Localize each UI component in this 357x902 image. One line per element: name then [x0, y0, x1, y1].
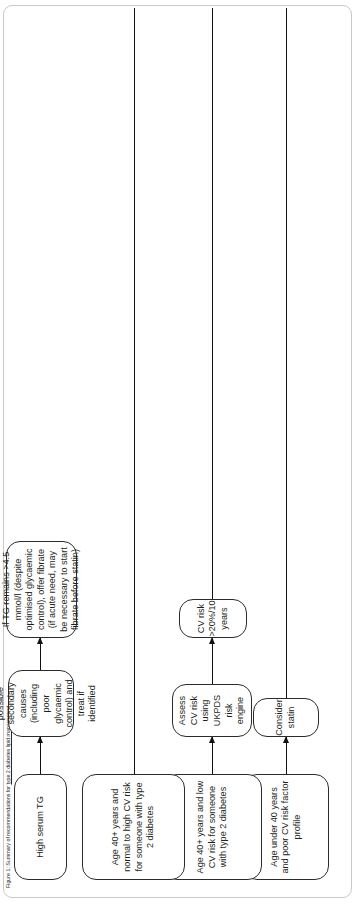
arrow-under-40-to-statin: [286, 737, 287, 774]
node-age-40-plus-normal-high-risk[interactable]: Age 40+ years and normal to high CV risk…: [82, 774, 185, 880]
node-tg-remains-fibrate-label: If TG remains >4.5 mmol/l (despite optim…: [1, 547, 82, 632]
node-assess-secondary-causes-label: Assess possible secondary causes (includ…: [0, 676, 99, 731]
arrow-tg-to-secondary-causes: [40, 737, 41, 774]
node-age-under-40-label: Age under 40 years and poor CV risk fact…: [269, 780, 304, 874]
node-assess-cv-risk-ukpds-label: Assess CV risk using UKPDS risk engine: [177, 690, 247, 731]
node-assess-secondary-causes[interactable]: Assess possible secondary causes (includ…: [8, 670, 74, 737]
node-consider-statin-label: Consider statin: [274, 699, 297, 735]
flowchart-stage: Figure 1: Summary of recommendations for…: [0, 0, 357, 902]
node-assess-cv-risk-ukpds[interactable]: Assess CV risk using UKPDS risk engine: [172, 684, 252, 737]
figure-caption: Figure 1: Summary of recommendations for…: [4, 16, 12, 888]
arrow-secondary-to-fibrate: [40, 638, 41, 670]
figure-page: Figure 1: Summary of recommendations for…: [0, 0, 357, 902]
connector-under-40-tail: [286, 8, 287, 698]
node-age-40-plus-normal-high-risk-label: Age 40+ years and normal to high CV risk…: [110, 780, 156, 874]
node-high-serum-tg[interactable]: High serum TG: [14, 774, 67, 880]
connector-cv-risk-tail: [212, 8, 213, 599]
node-cv-risk-over-20-label: CV risk >20%/10 years: [196, 600, 231, 636]
node-consider-statin[interactable]: Consider statin: [253, 698, 319, 737]
connector-normal-high-risk-tail: [134, 8, 135, 774]
arrow-assess-to-cv-risk: [212, 638, 213, 684]
node-high-serum-tg-label: High serum TG: [35, 796, 47, 858]
node-age-40-plus-low-risk-label: Age 40+ years and low CV risk for someon…: [195, 780, 230, 874]
arrow-low-risk-to-assess: [212, 737, 213, 774]
node-cv-risk-over-20[interactable]: CV risk >20%/10 years: [179, 599, 247, 638]
node-tg-remains-fibrate[interactable]: If TG remains >4.5 mmol/l (despite optim…: [6, 541, 77, 638]
figure-caption-prefix: Figure 1: Summary of recommendations for: [5, 785, 11, 888]
figure-card: [3, 5, 352, 898]
